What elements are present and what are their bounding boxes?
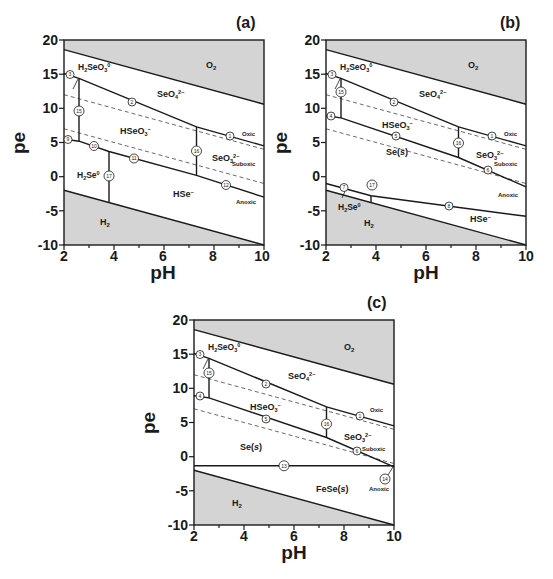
svg-text:4: 4	[199, 393, 202, 399]
region-seo3: SeO32−	[344, 432, 371, 443]
zone-suboxic: Suboxic	[362, 446, 386, 452]
y-axis-label: pe	[270, 132, 292, 154]
region-h2se: H2Se0	[77, 170, 100, 181]
y-tick: 20	[28, 33, 58, 47]
y-tick: 20	[290, 33, 320, 47]
marker-2: 2	[128, 98, 136, 106]
x-tick: 10	[379, 528, 409, 544]
x-axis-label: pH	[396, 262, 456, 284]
x-tick: 10	[247, 248, 277, 264]
zone-anoxic: Anoxic	[369, 486, 390, 492]
marker-5: 5	[392, 132, 400, 140]
marker-6: 6	[484, 166, 492, 174]
marker-4: 4	[327, 112, 335, 120]
marker-4: 4	[196, 392, 204, 400]
region-hseo3: HSeO3−	[250, 402, 281, 413]
svg-text:17: 17	[369, 182, 375, 188]
region-seo4: SeO42−	[288, 371, 315, 382]
region-ses: Se(s)	[386, 147, 408, 157]
y-tick: 20	[158, 313, 188, 327]
svg-text:15: 15	[338, 89, 344, 95]
x-axis-label: pH	[133, 262, 193, 284]
region-fese: FeSe(s)	[316, 484, 349, 494]
marker-7: 7	[340, 184, 348, 192]
zone-oxic: Oxic	[504, 131, 518, 137]
region-hseo3: HSeO3−	[120, 126, 151, 137]
marker-11: 11	[130, 154, 139, 163]
marker-6: 6	[353, 447, 361, 455]
svg-text:4: 4	[330, 113, 333, 119]
y-axis-label: pe	[138, 412, 160, 434]
x-tick: 4	[99, 248, 129, 264]
y-tick: 5	[290, 135, 320, 149]
y-tick: -5	[158, 484, 188, 498]
svg-text:13: 13	[281, 463, 287, 469]
y-tick: 0	[290, 169, 320, 183]
marker-16: 16	[192, 146, 202, 156]
y-axis-label: pe	[8, 132, 30, 154]
region-hseo3: HSeO3−	[382, 120, 413, 131]
x-tick: 8	[461, 248, 491, 264]
region-h2seo3: H2SeO30	[208, 342, 240, 353]
svg-text:1: 1	[359, 413, 362, 419]
marker-13: 13	[279, 461, 289, 471]
zone-suboxic: Suboxic	[494, 161, 518, 167]
region-seo4: SeO42−	[157, 89, 184, 100]
marker-2: 2	[390, 98, 398, 106]
svg-text:16: 16	[456, 140, 462, 146]
y-tick: 15	[28, 67, 58, 81]
svg-text:17: 17	[106, 173, 112, 179]
y-tick: 15	[158, 347, 188, 361]
svg-text:15: 15	[76, 108, 82, 114]
panel-label: (a)	[236, 14, 256, 32]
svg-text:2: 2	[131, 99, 134, 105]
svg-text:9: 9	[67, 136, 70, 142]
marker-17: 17	[367, 180, 377, 190]
region-hse: HSe−	[470, 214, 491, 224]
zone-oxic: Oxic	[370, 407, 384, 413]
svg-text:3: 3	[199, 351, 202, 357]
panel-label: (b)	[500, 14, 520, 32]
x-tick: 8	[198, 248, 228, 264]
x-tick: 10	[511, 248, 541, 264]
marker-12: 12	[222, 181, 231, 190]
x-tick: 8	[329, 528, 359, 544]
y-tick: 0	[28, 169, 58, 183]
x-tick: 2	[179, 528, 209, 544]
y-tick: -5	[28, 204, 58, 218]
svg-text:7: 7	[343, 184, 346, 190]
y-tick: 5	[158, 415, 188, 429]
marker-10: 10	[90, 142, 99, 151]
zone-suboxic: Suboxic	[232, 161, 256, 167]
x-tick: 2	[311, 248, 341, 264]
svg-text:10: 10	[91, 143, 97, 149]
marker-16: 16	[322, 419, 332, 429]
zone-anoxic: Anoxic	[236, 199, 257, 205]
region-ses: Se(s)	[240, 442, 262, 452]
marker-2: 2	[262, 380, 270, 388]
svg-text:14: 14	[382, 476, 388, 482]
marker-1: 1	[356, 412, 364, 420]
x-tick: 2	[49, 248, 79, 264]
y-tick: 15	[290, 67, 320, 81]
y-tick: 10	[158, 381, 188, 395]
marker-16: 16	[454, 138, 464, 148]
region-hse: HSe−	[173, 189, 194, 199]
svg-text:2: 2	[265, 381, 268, 387]
svg-text:3: 3	[69, 71, 72, 77]
svg-text:16: 16	[324, 421, 330, 427]
svg-text:12: 12	[223, 182, 229, 188]
zone-anoxic: Anoxic	[498, 192, 519, 198]
marker-3: 3	[196, 351, 204, 359]
panel-label: (c)	[367, 294, 387, 312]
y-tick: 5	[28, 135, 58, 149]
svg-text:16: 16	[194, 148, 200, 154]
y-tick: 10	[28, 101, 58, 115]
svg-text:5: 5	[265, 416, 268, 422]
x-tick: 4	[361, 248, 391, 264]
region-seo3: SeO32−	[476, 150, 503, 161]
marker-14: 14	[380, 474, 390, 484]
region-h2se: H2Se0	[338, 202, 361, 213]
marker-1: 1	[488, 132, 496, 140]
marker-15: 15	[74, 106, 84, 116]
